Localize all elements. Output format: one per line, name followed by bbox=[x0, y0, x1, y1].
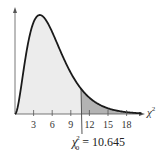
x-tick-label: 15 bbox=[103, 119, 113, 130]
x-tick-label: 12 bbox=[84, 119, 94, 130]
x-axis-label: χ2 bbox=[146, 105, 156, 118]
x-tick-label: 18 bbox=[122, 119, 132, 130]
x-tick-label: 9 bbox=[68, 119, 73, 130]
x-tick-label: 3 bbox=[31, 119, 36, 130]
y-axis-arrow-icon bbox=[13, 7, 17, 13]
x-tick-label: 6 bbox=[50, 119, 55, 130]
chi-square-chart: 369121518 χ2 χ20 = 10.645 bbox=[0, 0, 165, 155]
critical-value-label: χ20 = 10.645 bbox=[71, 134, 125, 152]
shaded-regions bbox=[15, 15, 142, 114]
